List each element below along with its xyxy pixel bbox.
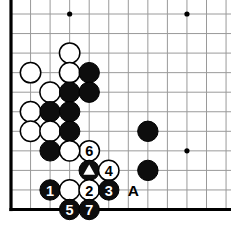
- move-number-label: 1: [46, 183, 54, 199]
- star-point: [184, 11, 189, 16]
- go-board-diagram: 6412357 A: [0, 0, 231, 225]
- stone-white: [59, 141, 79, 161]
- white-stone: [20, 121, 40, 141]
- stone-white: [59, 43, 79, 63]
- stone-white-2: 2: [79, 180, 99, 200]
- stone-black: [138, 160, 158, 180]
- white-stone: [59, 43, 79, 63]
- move-number-label: 6: [85, 143, 93, 159]
- white-stone: [59, 141, 79, 161]
- black-stone: [138, 160, 158, 180]
- white-stone: [40, 121, 60, 141]
- white-stone: [20, 102, 40, 122]
- stone-black: [79, 82, 99, 102]
- stone-white-6: 6: [79, 141, 99, 161]
- coordinate-labels-layer: A: [128, 182, 139, 199]
- point-label-A: A: [128, 182, 139, 199]
- white-stone: [40, 82, 60, 102]
- black-stone: [40, 141, 60, 161]
- stone-white-4: 4: [99, 160, 119, 180]
- stone-black: [79, 160, 99, 180]
- stone-white: [20, 62, 40, 82]
- stone-white: [20, 121, 40, 141]
- stone-black-5: 5: [59, 199, 79, 219]
- stone-black: [59, 82, 79, 102]
- move-number-label: 2: [85, 183, 93, 199]
- white-stone: [20, 62, 40, 82]
- black-stone: [79, 62, 99, 82]
- black-stone: [59, 121, 79, 141]
- stone-black-7: 7: [79, 199, 99, 219]
- stone-black-3: 3: [99, 180, 119, 200]
- black-stone: [138, 121, 158, 141]
- stone-black: [40, 102, 60, 122]
- move-number-label: 3: [105, 183, 113, 199]
- move-number-label: 7: [85, 202, 93, 218]
- black-stone: [59, 102, 79, 122]
- stone-black: [59, 102, 79, 122]
- stone-black: [59, 121, 79, 141]
- stone-black: [138, 121, 158, 141]
- star-point: [67, 11, 72, 16]
- move-number-label: 4: [105, 163, 113, 179]
- stone-black: [79, 62, 99, 82]
- move-number-label: 5: [66, 202, 74, 218]
- white-stone: [59, 62, 79, 82]
- stone-white: [59, 62, 79, 82]
- stone-white: [59, 180, 79, 200]
- white-stone: [59, 180, 79, 200]
- black-stone: [59, 82, 79, 102]
- stone-white: [40, 82, 60, 102]
- stone-white: [40, 121, 60, 141]
- stone-black-1: 1: [40, 180, 60, 200]
- go-board-canvas: 6412357 A: [0, 0, 231, 225]
- stone-black: [40, 141, 60, 161]
- black-stone: [79, 82, 99, 102]
- stone-white: [20, 102, 40, 122]
- star-point: [184, 148, 189, 153]
- black-stone: [40, 102, 60, 122]
